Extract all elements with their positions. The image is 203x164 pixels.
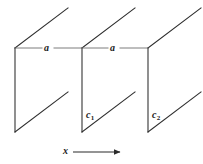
coefficient-label-c1-subscript: 1 [91, 114, 95, 122]
spacing-label-a-1: a [44, 43, 49, 53]
panel-1-top-diagonal [15, 8, 68, 48]
coefficient-label-c2-subscript: 2 [157, 114, 161, 122]
spacing-label-a-2: a [110, 43, 115, 53]
panel-3-top-diagonal [148, 8, 201, 48]
lattice-panel-1 [15, 8, 68, 132]
panel-2-top-diagonal [82, 8, 135, 48]
coefficient-label-c2-base: c [152, 109, 156, 120]
coefficient-label-c1-base: c [86, 109, 90, 120]
coefficient-label-c1: c1 [86, 110, 94, 120]
x-axis-label: x [63, 146, 68, 156]
panel-1-bottom-diagonal [15, 92, 68, 132]
lattice-diagram-figure: a a c1 c2 x [0, 0, 203, 164]
coefficient-label-c2: c2 [152, 110, 160, 120]
diagram-canvas [0, 0, 203, 164]
